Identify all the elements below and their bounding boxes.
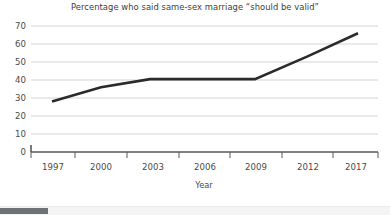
y-tick-label: 40 <box>15 75 26 85</box>
y-tick-label: 0 <box>21 147 26 157</box>
x-tick-label: 2009 <box>245 162 267 172</box>
horizontal-scrollbar-thumb[interactable] <box>0 208 48 214</box>
y-tick-label: 10 <box>15 129 26 139</box>
data-series-line <box>52 33 358 101</box>
x-axis-title: Year <box>194 180 213 190</box>
x-tick-label: 1997 <box>42 162 64 172</box>
line-chart-figure: Percentage who said same-sex marriage “s… <box>0 0 390 215</box>
y-tick-label: 60 <box>15 39 26 49</box>
y-tick-label: 20 <box>15 111 26 121</box>
y-tick-label: 30 <box>15 93 26 103</box>
x-tick-label: 2017 <box>345 162 367 172</box>
x-tick-label: 2012 <box>297 162 319 172</box>
x-axis-ticks <box>31 152 378 158</box>
chart-plot-area: 70 60 50 40 30 20 10 0 1997 <box>0 0 390 205</box>
y-tick-label: 50 <box>15 57 26 67</box>
x-tick-label: 2000 <box>90 162 112 172</box>
y-axis-tick-labels: 70 60 50 40 30 20 10 0 <box>15 21 26 157</box>
x-axis-tick-labels: 1997 2000 2003 2006 2009 2012 2017 <box>42 162 367 172</box>
horizontal-scrollbar-track[interactable] <box>0 206 390 215</box>
x-tick-label: 2006 <box>194 162 216 172</box>
x-tick-label: 2003 <box>142 162 164 172</box>
y-tick-label: 70 <box>15 21 26 31</box>
